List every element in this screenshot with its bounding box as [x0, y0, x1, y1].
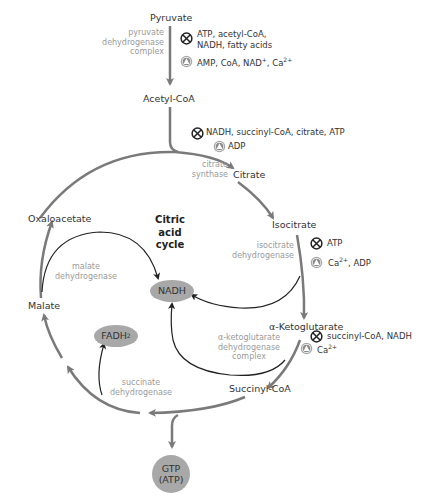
activator-icon	[180, 55, 193, 68]
enzyme-pyruvate-dehydrogenase: pyruvate dehydrogenase complex	[100, 28, 164, 57]
metabolite-oxaloacetate: Oxaloacetate	[28, 214, 91, 225]
enzyme-akg-dehydrogenase: α-ketoglutarate dehydrogenase complex	[216, 333, 282, 362]
akg-dh-activators: Ca2+	[317, 343, 337, 355]
gtp-label: GTP	[162, 463, 181, 474]
citrate-synthase-inhibitors: NADH, succinyl-CoA, citrate, ATP	[206, 127, 345, 138]
enzyme-line: isocitrate	[228, 241, 294, 251]
product-fadh2: FADH2	[94, 325, 138, 347]
inhibitor-icon	[180, 32, 193, 45]
fadh2-label: FADH	[101, 330, 127, 341]
enzyme-citrate-synthase: citrate synthase	[170, 160, 228, 179]
fadh2-subscript: 2	[127, 332, 131, 339]
activator-icon	[213, 140, 226, 153]
metabolite-malate: Malate	[28, 301, 60, 312]
cycle-title: Citric acid cycle	[150, 214, 190, 252]
inhibitor-line: NADH, fatty acids	[197, 40, 272, 51]
atp-label: (ATP)	[159, 474, 184, 485]
enzyme-line: dehydrogenase	[100, 38, 164, 48]
inhibitor-line: ATP, acetyl-CoA,	[197, 29, 272, 40]
isocitrate-dh-inhibitors: ATP	[327, 238, 342, 249]
metabolite-isocitrate: Isocitrate	[272, 220, 316, 231]
activator-text: Ca	[317, 345, 328, 355]
metabolite-succinyl-coa: Succinyl-CoA	[229, 384, 291, 395]
enzyme-line: complex	[100, 47, 164, 57]
metabolite-acetyl-coa: Acetyl-CoA	[143, 94, 195, 105]
cofactor-isocitrate-to-nadh	[192, 276, 300, 308]
cofactor-succinate-to-fadh2	[99, 344, 104, 395]
pathway-arrows	[0, 0, 427, 500]
arc-citrate-to-isocitrate	[238, 182, 273, 218]
activator-text: Ca	[328, 258, 339, 268]
enzyme-isocitrate-dehydrogenase: isocitrate dehydrogenase	[228, 241, 294, 260]
activator-sup: 2+	[283, 56, 292, 63]
enzyme-line: succinate	[106, 378, 176, 388]
enzyme-line: dehydrogenase	[216, 343, 282, 353]
metabolite-pyruvate: Pyruvate	[150, 13, 192, 24]
cycle-title-line: acid	[150, 227, 190, 240]
arc-to-malate-upper	[44, 315, 62, 358]
isocitrate-dh-activators: Ca2+, ADP	[328, 256, 371, 268]
activator-sup: 2+	[328, 343, 337, 350]
product-gtp: GTP (ATP)	[152, 455, 190, 493]
activator-icon	[300, 342, 313, 355]
activator-text: , ADP	[348, 258, 371, 268]
citrate-synthase-activators: ADP	[228, 141, 246, 152]
inhibitor-icon	[191, 127, 204, 140]
enzyme-line: dehydrogenase	[52, 272, 120, 282]
activator-text: , Ca	[267, 58, 284, 68]
enzyme-line: synthase	[170, 170, 228, 180]
enzyme-line: dehydrogenase	[228, 251, 294, 261]
enzyme-succinate-dehydrogenase: succinate dehydrogenase	[106, 378, 176, 397]
activator-icon	[310, 256, 323, 269]
product-nadh: NADH	[150, 280, 194, 302]
arc-isocitrate-to-akg	[297, 235, 304, 318]
cycle-title-line: cycle	[150, 239, 190, 252]
enzyme-line: α-ketoglutarate	[216, 333, 282, 343]
arc-succinylcoa-to-bottom	[150, 397, 245, 413]
arrow-acetylcoa-into-cycle	[170, 107, 178, 152]
cycle-title-line: Citric	[150, 214, 190, 227]
enzyme-line: dehydrogenase	[106, 388, 176, 398]
activator-sup: 2+	[339, 256, 348, 263]
metabolite-citrate: Citrate	[233, 170, 265, 181]
enzyme-line: malate	[52, 262, 120, 272]
arrow-to-gtp	[172, 415, 178, 447]
pdh-activators: AMP, CoA, NAD+, Ca2+	[197, 56, 292, 68]
akg-dh-inhibitors: succinyl-CoA, NADH	[327, 331, 412, 342]
enzyme-line: complex	[216, 352, 282, 362]
activator-text: AMP, CoA, NAD	[197, 58, 262, 68]
inhibitor-icon	[310, 237, 323, 250]
pdh-inhibitors: ATP, acetyl-CoA, NADH, fatty acids	[197, 29, 272, 50]
enzyme-malate-dehydrogenase: malate dehydrogenase	[52, 262, 120, 281]
enzyme-line: pyruvate	[100, 28, 164, 38]
enzyme-line: citrate	[170, 160, 228, 170]
